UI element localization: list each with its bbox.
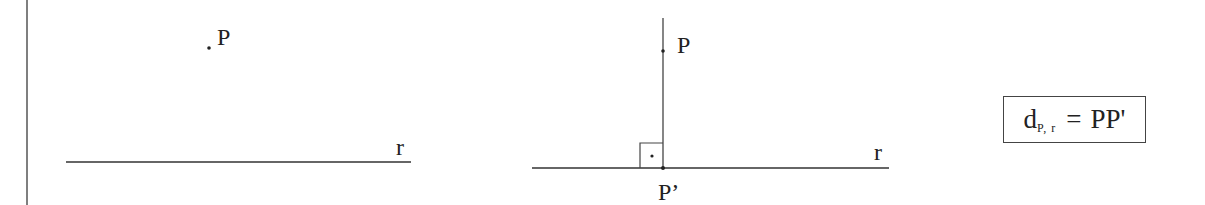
point-p-dot	[207, 46, 211, 50]
formula-rhs: PP'	[1091, 104, 1126, 135]
foot-point-dot	[661, 166, 665, 170]
point-p-label: P	[217, 24, 230, 50]
formula-equals: =	[1066, 104, 1081, 135]
figure-left: P r	[66, 24, 411, 162]
right-angle-dot	[650, 154, 653, 157]
point-p-dot	[661, 49, 665, 53]
distance-formula-box: d P, r = PP'	[1003, 96, 1146, 143]
point-p-label: P	[677, 32, 690, 58]
foot-point-label: P’	[658, 179, 679, 205]
formula-distance-symbol: d	[1024, 104, 1038, 135]
formula-subscript: P, r	[1037, 121, 1056, 136]
line-r-label: r	[396, 134, 404, 160]
line-r-label: r	[874, 139, 882, 165]
figure-right: P r P’	[532, 18, 889, 205]
